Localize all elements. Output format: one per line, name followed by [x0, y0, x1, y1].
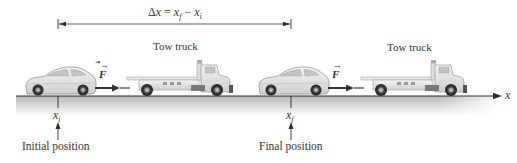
subscript-f: f [291, 115, 293, 124]
vector-arrow-icon: → [333, 60, 342, 70]
displacement-diagram: Δx = xf − xi Tow truck Tow truck ⃗→ F → … [0, 0, 517, 163]
delta-symbol: Δ [148, 5, 156, 19]
ground [16, 96, 500, 116]
car-initial [26, 67, 96, 96]
force-arrow-1 [95, 85, 130, 92]
final-position-symbol: xf [286, 108, 294, 124]
tow-truck-label-1: Tow truck [153, 40, 198, 52]
displacement-equation: Δx = xf − xi [148, 5, 202, 21]
minus-sign: − [181, 5, 194, 19]
initial-position-symbol: xi [53, 108, 61, 124]
tow-truck-label-2: Tow truck [387, 41, 432, 53]
force-arrow-2 [328, 85, 364, 92]
tow-truck-initial [127, 60, 233, 96]
tow-truck-final [361, 60, 467, 96]
xi-subscript: i [200, 12, 202, 21]
subscript-i: i [58, 115, 60, 124]
equals-sign: = [161, 5, 174, 19]
initial-position-caption: Initial position [22, 140, 89, 152]
final-position-caption: Final position [259, 140, 323, 152]
car-final [259, 67, 329, 96]
force-label-2: → F [332, 68, 339, 80]
x-axis-label: x [505, 88, 510, 103]
force-label-1: ⃗→ F [99, 68, 106, 80]
vector-arrow-icon: ⃗→ [100, 60, 109, 70]
